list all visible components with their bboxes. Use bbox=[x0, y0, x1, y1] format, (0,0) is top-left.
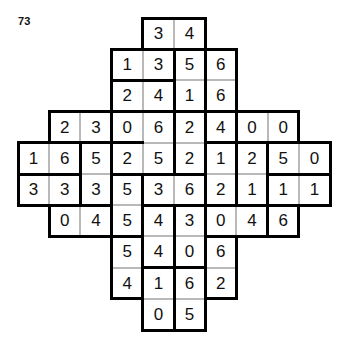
grid-cell[interactable]: 3 bbox=[80, 112, 111, 143]
grid-cell[interactable]: 0 bbox=[236, 112, 267, 143]
grid-cell[interactable]: 5 bbox=[112, 205, 143, 236]
domino-border bbox=[173, 329, 207, 332]
grid-cell[interactable]: 5 bbox=[143, 143, 174, 174]
domino-border bbox=[110, 141, 144, 144]
grid-cell[interactable]: 1 bbox=[268, 174, 299, 205]
domino-border bbox=[110, 48, 113, 82]
domino-border bbox=[17, 173, 20, 207]
grid-cell[interactable]: 0 bbox=[49, 205, 80, 236]
domino-border bbox=[235, 173, 238, 207]
domino-border bbox=[110, 141, 113, 175]
grid-cell[interactable]: 4 bbox=[205, 112, 236, 143]
grid-cell[interactable]: 3 bbox=[143, 18, 174, 49]
domino-border bbox=[266, 141, 300, 144]
grid-cell[interactable]: 2 bbox=[112, 80, 143, 111]
grid-cell[interactable]: 5 bbox=[80, 143, 111, 174]
grid-cell[interactable]: 3 bbox=[80, 174, 111, 205]
grid-cell[interactable]: 4 bbox=[143, 205, 174, 236]
grid-cell[interactable]: 1 bbox=[18, 143, 49, 174]
grid-cell[interactable]: 1 bbox=[112, 49, 143, 80]
domino-border bbox=[173, 17, 207, 20]
grid-cell[interactable]: 5 bbox=[112, 174, 143, 205]
domino-border bbox=[110, 266, 113, 300]
grid-cell[interactable]: 2 bbox=[49, 112, 80, 143]
grid-cell[interactable]: 5 bbox=[174, 49, 205, 80]
domino-border bbox=[48, 204, 82, 207]
domino-border bbox=[110, 79, 144, 82]
domino-border bbox=[204, 297, 207, 331]
domino-border bbox=[141, 235, 144, 269]
grid-cell[interactable]: 3 bbox=[49, 174, 80, 205]
domino-border bbox=[204, 173, 207, 207]
domino-border bbox=[48, 141, 82, 144]
domino-border bbox=[204, 17, 207, 51]
domino-border bbox=[17, 204, 51, 207]
domino-border bbox=[110, 110, 113, 144]
grid-cell[interactable]: 0 bbox=[299, 143, 330, 174]
domino-border bbox=[141, 48, 175, 51]
grid-cell[interactable]: 6 bbox=[174, 268, 205, 299]
domino-border bbox=[173, 173, 207, 176]
grid-cell[interactable]: 6 bbox=[268, 205, 299, 236]
domino-border bbox=[235, 235, 238, 269]
domino-border bbox=[173, 141, 176, 175]
grid-cell[interactable]: 0 bbox=[174, 236, 205, 267]
domino-border bbox=[141, 110, 175, 113]
grid-cell[interactable]: 1 bbox=[299, 174, 330, 205]
domino-border bbox=[79, 235, 113, 238]
grid-cell[interactable]: 1 bbox=[205, 143, 236, 174]
domino-border bbox=[141, 266, 144, 300]
domino-border bbox=[79, 204, 113, 207]
grid-cell[interactable]: 4 bbox=[112, 268, 143, 299]
domino-border bbox=[297, 110, 300, 144]
grid-cell[interactable]: 0 bbox=[143, 299, 174, 330]
grid-cell[interactable]: 2 bbox=[205, 268, 236, 299]
grid-cell[interactable]: 2 bbox=[236, 143, 267, 174]
grid-cell[interactable]: 0 bbox=[112, 112, 143, 143]
grid-cell[interactable]: 4 bbox=[174, 18, 205, 49]
grid-cell[interactable]: 4 bbox=[236, 205, 267, 236]
domino-border bbox=[235, 79, 238, 113]
domino-border bbox=[48, 173, 82, 176]
domino-border bbox=[110, 235, 113, 269]
domino-border bbox=[173, 48, 207, 51]
grid-cell[interactable]: 2 bbox=[112, 143, 143, 174]
grid-cell[interactable]: 1 bbox=[174, 80, 205, 111]
grid-cell[interactable]: 2 bbox=[174, 112, 205, 143]
grid-cell[interactable]: 5 bbox=[268, 143, 299, 174]
domino-border bbox=[235, 204, 269, 207]
grid-cell[interactable]: 6 bbox=[49, 143, 80, 174]
domino-border bbox=[266, 141, 269, 175]
domino-border bbox=[48, 204, 51, 238]
grid-cell[interactable]: 3 bbox=[174, 205, 205, 236]
grid-cell[interactable]: 4 bbox=[143, 236, 174, 267]
domino-border bbox=[141, 79, 175, 82]
domino-border bbox=[173, 110, 207, 113]
grid-cell[interactable]: 1 bbox=[143, 268, 174, 299]
grid-cell[interactable]: 2 bbox=[174, 143, 205, 174]
domino-border bbox=[110, 204, 113, 238]
domino-border bbox=[266, 173, 300, 176]
grid-cell[interactable]: 1 bbox=[236, 174, 267, 205]
grid-cell[interactable]: 0 bbox=[268, 112, 299, 143]
domino-border bbox=[204, 79, 207, 113]
grid-cell[interactable]: 4 bbox=[143, 80, 174, 111]
grid-cell[interactable]: 4 bbox=[80, 205, 111, 236]
domino-grid[interactable]: 3413562416230624001652521250333536211104… bbox=[18, 18, 330, 346]
domino-border bbox=[141, 173, 175, 176]
grid-cell[interactable]: 6 bbox=[143, 112, 174, 143]
domino-border bbox=[235, 266, 238, 300]
grid-cell[interactable]: 3 bbox=[143, 174, 174, 205]
grid-cell[interactable]: 2 bbox=[205, 174, 236, 205]
grid-cell[interactable]: 5 bbox=[112, 236, 143, 267]
grid-cell[interactable]: 3 bbox=[18, 174, 49, 205]
grid-cell[interactable]: 6 bbox=[174, 174, 205, 205]
grid-cell[interactable]: 5 bbox=[174, 299, 205, 330]
grid-cell[interactable]: 6 bbox=[205, 80, 236, 111]
grid-cell[interactable]: 0 bbox=[205, 205, 236, 236]
domino-border bbox=[173, 266, 176, 300]
domino-border bbox=[79, 173, 82, 207]
grid-cell[interactable]: 3 bbox=[143, 49, 174, 80]
grid-cell[interactable]: 6 bbox=[205, 49, 236, 80]
grid-cell[interactable]: 6 bbox=[205, 236, 236, 267]
